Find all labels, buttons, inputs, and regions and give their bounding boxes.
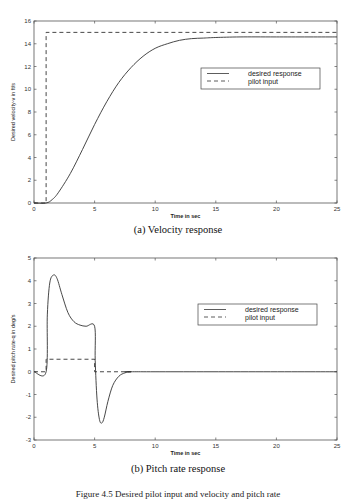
- y-tick-label: -1: [26, 392, 32, 398]
- x-tick-label: 10: [152, 443, 159, 449]
- x-tick-label: 15: [212, 443, 219, 449]
- y-tick-label: -2: [26, 414, 32, 420]
- x-axis-label: Time in sec: [171, 213, 201, 219]
- caption-pitch-rate: (b) Pitch rate response: [0, 463, 356, 474]
- y-tick-label: 4: [28, 278, 32, 284]
- y-tick-label: 0: [28, 369, 32, 375]
- y-tick-label: 12: [24, 64, 31, 70]
- legend: desired responsepilot input: [201, 68, 320, 89]
- legend-label: pilot input: [248, 78, 278, 86]
- plot-frame: [34, 21, 337, 203]
- legend: desired responsepilot input: [198, 304, 317, 325]
- y-axis-label: Desired pitch rate-q in deg/s: [10, 314, 16, 383]
- x-tick-label: 5: [93, 443, 97, 449]
- x-tick-label: 0: [32, 206, 36, 212]
- y-tick-label: 6: [28, 132, 32, 138]
- series-desired-response: [34, 37, 337, 203]
- x-tick-label: 25: [334, 443, 341, 449]
- y-tick-label: 1: [28, 346, 32, 352]
- y-tick-label: 10: [24, 86, 31, 92]
- x-axis-label: Time in sec: [171, 450, 201, 456]
- x-tick-label: 25: [334, 206, 341, 212]
- y-tick-label: 2: [28, 177, 32, 183]
- figure-caption: Figure 4.5 Desired pilot input and veloc…: [0, 489, 356, 499]
- series-pilot-input: [34, 359, 131, 372]
- y-tick-label: 16: [24, 18, 31, 24]
- y-tick-label: 8: [28, 109, 32, 115]
- chart-pitch-rate: 0510152025-3-2-1012345Time in secDesired…: [10, 255, 341, 456]
- x-tick-label: 15: [212, 206, 219, 212]
- caption-velocity: (a) Velocity response: [0, 224, 356, 235]
- x-tick-label: 20: [273, 443, 280, 449]
- y-tick-label: 3: [28, 301, 32, 307]
- y-tick-label: 5: [28, 255, 32, 261]
- plot-frame: [34, 258, 337, 440]
- series-desired-response: [34, 275, 337, 423]
- y-axis-label: Desired velocity-v in ft/s: [10, 83, 16, 141]
- chart-velocity: 05101520250246810121416Time in secDesire…: [10, 18, 341, 219]
- y-tick-label: -3: [26, 437, 32, 443]
- series-pilot-input: [34, 32, 337, 203]
- legend-label: pilot input: [245, 314, 275, 322]
- x-tick-label: 20: [273, 206, 280, 212]
- y-tick-label: 4: [28, 155, 32, 161]
- x-tick-label: 10: [152, 206, 159, 212]
- x-tick-label: 0: [32, 443, 36, 449]
- x-tick-label: 5: [93, 206, 97, 212]
- y-tick-label: 2: [28, 323, 32, 329]
- y-tick-label: 0: [28, 200, 32, 206]
- y-tick-label: 14: [24, 41, 31, 47]
